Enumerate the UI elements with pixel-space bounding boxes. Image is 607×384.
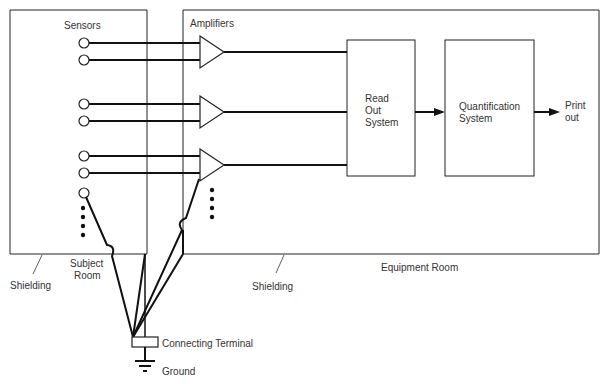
schematic-drawing [0,0,607,384]
readout-label-3: System [365,117,398,129]
readout-label-1: Read [365,93,389,105]
quantification-label-2: System [459,113,492,125]
sensors-label: Sensors [64,20,101,32]
amplifiers-label: Amplifiers [190,18,234,30]
equipment-room-label: Equipment Room [381,262,458,274]
quantification-label-1: Quantification [459,101,520,113]
subject-room-box [10,10,147,254]
ground-symbol [135,347,155,371]
readout-label-2: Out [365,105,381,117]
printout-label-1: Print [565,100,586,112]
ground-label: Ground [162,366,195,378]
amplifier-triangles [200,36,224,181]
sensor-circles [79,38,89,198]
shielding-label-left: Shielding [10,280,51,292]
shielding-label-right: Shielding [252,281,293,293]
connecting-terminal [132,337,158,347]
printout-label-2: out [565,112,579,124]
connecting-terminal-label: Connecting Terminal [162,338,253,350]
equipment-room-box [183,10,599,254]
subject-room-label-1: Subject [70,258,103,270]
subject-room-label-2: Room [74,270,101,282]
